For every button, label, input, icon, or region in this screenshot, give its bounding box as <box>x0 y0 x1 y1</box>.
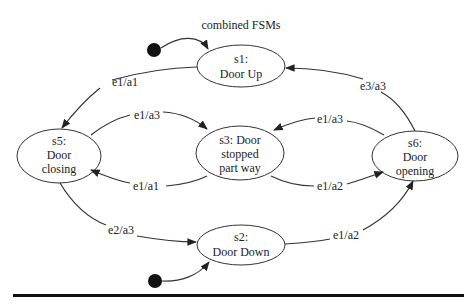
initial-state-dot-top <box>147 43 161 57</box>
state-s5-name-2: closing <box>42 162 77 176</box>
state-s2-id: s2: <box>234 230 248 244</box>
state-s6: s6: Door opening <box>372 131 458 181</box>
state-s6-name-2: opening <box>396 164 435 178</box>
bottom-rule <box>13 294 464 297</box>
edge-label-s2-s6: e1/a2 <box>333 228 359 242</box>
state-s2-name: Door Down <box>213 245 270 259</box>
state-s1: s1: Door Up <box>197 45 285 87</box>
state-s3-name-2: part way <box>219 161 261 175</box>
state-s3-name-1: stopped <box>221 147 258 161</box>
state-s3: s3: Door stopped part way <box>196 126 284 180</box>
edge-start-s2 <box>162 262 209 281</box>
state-s5-id: s5: <box>52 134 66 148</box>
initial-state-dot-bottom <box>148 274 162 288</box>
fsm-diagram: combined FSMs s1: Door Up s2: Door Down … <box>0 0 475 304</box>
edge-s3-s5-b <box>91 170 130 183</box>
edge-label-s6-s3: e1/a3 <box>317 112 343 126</box>
edge-label-s6-s1: e3/a3 <box>360 79 386 93</box>
state-s5-name-1: Door <box>47 148 72 162</box>
edge-s5-s3-b <box>163 112 207 129</box>
edge-s5-s2-a <box>60 183 106 225</box>
state-s5: s5: Door closing <box>17 129 101 183</box>
edge-s2-s6-a <box>285 239 330 244</box>
edge-s5-s3-a <box>91 115 130 135</box>
edge-s6-s3-a <box>347 121 384 135</box>
state-s1-name: Door Up <box>220 67 262 81</box>
state-s2: s2: Door Down <box>197 225 285 265</box>
edge-s6-s3-b <box>274 118 315 130</box>
edge-s1-s5-b <box>62 88 100 128</box>
edge-label-s1-s5: e1/a1 <box>112 75 138 89</box>
edge-label-s3-s6: e1/a2 <box>317 179 343 193</box>
edge-s6-s1-b <box>286 68 363 79</box>
edge-s3-s6-a <box>271 176 314 186</box>
edge-s2-s6-b <box>363 181 413 230</box>
state-s6-name-1: Door <box>403 150 428 164</box>
edge-s5-s2-b <box>137 236 196 242</box>
edge-start-s1 <box>161 38 208 49</box>
edge-s6-s1-a <box>381 92 415 131</box>
edge-label-s3-s5: e1/a1 <box>133 179 159 193</box>
edge-label-s5-s2: e2/a3 <box>108 223 134 237</box>
diagram-title: combined FSMs <box>201 18 280 32</box>
edge-s3-s5-a <box>166 176 207 186</box>
state-s1-id: s1: <box>234 52 248 66</box>
edge-s3-s6-b <box>347 172 383 184</box>
state-s6-id: s6: <box>408 136 422 150</box>
edge-label-s5-s3: e1/a3 <box>134 108 160 122</box>
state-s3-id: s3: Door <box>219 133 261 147</box>
